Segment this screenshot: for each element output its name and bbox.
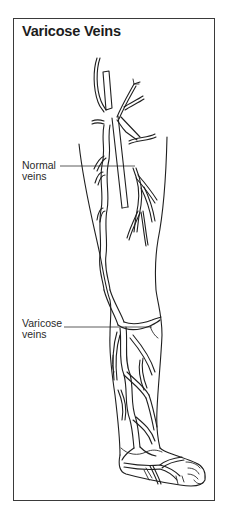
normal-veins <box>92 58 157 290</box>
varicose-veins <box>104 290 203 484</box>
leg-illustration <box>0 0 228 519</box>
